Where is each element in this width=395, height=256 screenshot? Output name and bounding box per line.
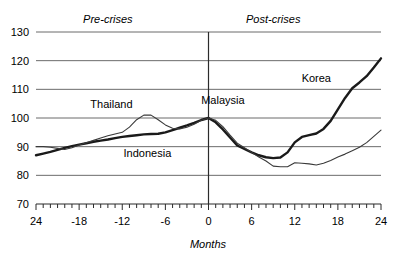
annotation-thailand: Thailand xyxy=(90,98,132,110)
x-tick-label-7: 18 xyxy=(332,215,344,227)
x-tick-label-1: -18 xyxy=(71,215,87,227)
chart-figure: 708090100110120130 24-18-12-606121824 Pr… xyxy=(0,0,395,256)
tickmarks-group xyxy=(36,204,381,210)
y-tick-labels-group: 708090100110120130 xyxy=(11,26,29,210)
x-tick-label-5: 6 xyxy=(249,215,255,227)
annotation-pre-crises: Pre-crises xyxy=(83,13,133,25)
x-tick-labels-group: 24-18-12-606121824 xyxy=(30,215,387,227)
x-tick-label-8: 24 xyxy=(375,215,387,227)
y-tick-label-110: 110 xyxy=(11,83,29,95)
annotation-korea: Korea xyxy=(302,72,332,84)
x-tick-label-0: 24 xyxy=(30,215,42,227)
y-tick-label-70: 70 xyxy=(17,198,29,210)
y-tick-label-80: 80 xyxy=(17,169,29,181)
x-tick-label-3: -6 xyxy=(160,215,170,227)
x-tick-label-4: 0 xyxy=(205,215,211,227)
y-tick-label-90: 90 xyxy=(17,141,29,153)
x-tick-label-2: -12 xyxy=(114,215,130,227)
x-axis-title: Months xyxy=(190,238,227,250)
annotation-post-crises: Post-crises xyxy=(246,13,301,25)
annotation-indonesia: Indonesia xyxy=(124,147,173,159)
y-tick-label-130: 130 xyxy=(11,26,29,38)
line-chart-canvas: 708090100110120130 24-18-12-606121824 Pr… xyxy=(0,0,395,256)
y-tick-label-120: 120 xyxy=(11,55,29,67)
annotation-malaysia: Malaysia xyxy=(201,94,245,106)
y-tick-label-100: 100 xyxy=(11,112,29,124)
x-tick-label-6: 12 xyxy=(289,215,301,227)
